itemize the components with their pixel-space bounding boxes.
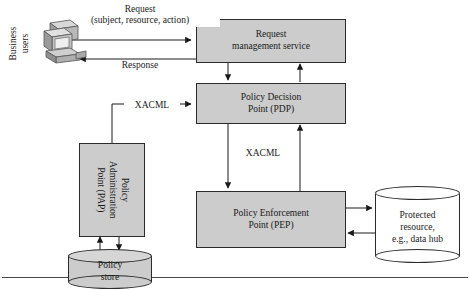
node-policy-decision-point[interactable]: Policy Decision Point (PDP) — [196, 83, 346, 124]
workstation-icon — [36, 17, 90, 67]
business-users-label-line1: Business — [8, 16, 20, 72]
xacml-pdp-pep-label: XACML — [235, 148, 291, 159]
policy-store-label: Policy store — [68, 260, 152, 284]
protected-resource-cylinder-top — [375, 186, 460, 200]
request-edge-label-line1: Request — [60, 4, 220, 15]
node-policy-store[interactable]: Policy store — [68, 249, 152, 289]
request-management-service-line2: management service — [232, 41, 310, 53]
node-policy-enforcement-point[interactable]: Policy Enforcement Point (PEP) — [196, 191, 346, 248]
protected-resource-line3: e.g., data hub — [375, 234, 460, 246]
policy-administration-point-text: Policy Administration Point (PAP) — [94, 161, 130, 219]
policy-store-line2: store — [68, 272, 152, 284]
xacml-pap-pdp-label: XACML — [124, 100, 180, 111]
protected-resource-cylinder-bottom — [375, 249, 460, 263]
policy-decision-point-line1: Policy Decision — [241, 92, 301, 104]
protected-resource-line1: Protected — [375, 210, 460, 222]
business-users-label-line2: users — [20, 16, 32, 72]
policy-administration-point-line1: Policy — [118, 161, 130, 219]
protected-resource-line2: resource, — [375, 222, 460, 234]
node-policy-administration-point[interactable]: Policy Administration Point (PAP) — [79, 143, 145, 237]
request-management-service-line1: Request — [232, 29, 310, 41]
policy-enforcement-point-line2: Point (PEP) — [233, 220, 309, 232]
policy-store-line1: Policy — [68, 260, 152, 272]
xacml-architecture-diagram: Business users Request (subject, resourc… — [0, 0, 470, 290]
policy-administration-point-line3: Point (PAP) — [94, 161, 106, 219]
response-edge-label: Response — [105, 60, 175, 71]
policy-enforcement-point-line1: Policy Enforcement — [233, 208, 309, 220]
policy-administration-point-line2: Administration — [106, 161, 118, 219]
business-users-label: Business users — [8, 16, 31, 72]
policy-decision-point-line2: Point (PDP) — [241, 104, 301, 116]
protected-resource-label: Protected resource, e.g., data hub — [375, 210, 460, 246]
node-protected-resource[interactable]: Protected resource, e.g., data hub — [375, 186, 460, 264]
